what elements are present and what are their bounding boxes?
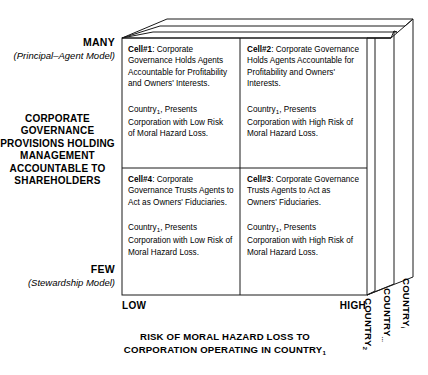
x-axis-title-line-2: CORPORATION OPERATING IN COUNTRY (124, 344, 323, 355)
cell-1-label-suffix: : (152, 45, 154, 54)
plane2-top-left-diagonal (122, 26, 160, 38)
depth-label-country-i: COUNTRYi (400, 278, 412, 328)
cell-4-paragraph-2: Country1, Presents Corporation with Low … (128, 222, 236, 258)
cell-1-paragraph-1: Cell#1: Corporate Governance Holds Agent… (128, 44, 232, 90)
matrix-cell-3: Cell#3: Corporate Governance Trusts Agen… (247, 174, 359, 258)
cell-2-country-pre: Country (247, 105, 276, 114)
cell-2-label-suffix: : (271, 45, 273, 54)
y-axis-bottom-label: FEW (0, 263, 115, 275)
matrix-cell-1: Cell#1: Corporate Governance Holds Agent… (128, 44, 232, 139)
x-axis-title-subscript: 1 (322, 349, 326, 356)
x-axis-title-line-1: RISK OF MORAL HAZARD LOSS TO (140, 331, 310, 342)
apex-diagonal (405, 19, 413, 26)
cell-2-paragraph-1: Cell#2: Corporate Governance Holds Agent… (247, 44, 359, 90)
plane1-plane2-diagonal (391, 26, 405, 38)
cell-1-country-pre: Country (128, 105, 157, 114)
cell-2-label: Cell#2 (247, 45, 271, 54)
depth-label-country-ellipsis-subscript: ... (381, 336, 388, 342)
depth-label-country-2-text: COUNTRY (363, 298, 374, 346)
matrix-cell-2: Cell#2: Corporate Governance Holds Agent… (247, 44, 359, 139)
cell-4-country-pre: Country (128, 223, 157, 232)
cell-3-label-suffix: : (271, 175, 273, 184)
depth-label-country-2-subscript: 2 (362, 346, 369, 350)
y-axis-top-label: MANY (0, 36, 115, 48)
depth-label-country-i-subscript: i (400, 326, 407, 328)
plane1-bottom-right-diagonal (367, 291, 375, 295)
cell-3-country-pre: Country (247, 223, 276, 232)
y-axis-bottom-sublabel: (Stewardship Model) (0, 277, 115, 288)
depth-label-country-2: COUNTRY2 (362, 298, 374, 350)
plane2-corner-connector (394, 31, 397, 32)
x-axis-high-label: HIGH (306, 300, 366, 311)
depth-label-country-i-text: COUNTRY (401, 278, 412, 326)
diagram-canvas: MANY (Principal–Agent Model) CORPORATE G… (0, 0, 428, 375)
plane2-right-diagonal (391, 31, 394, 38)
cell-3-paragraph-1: Cell#3: Corporate Governance Trusts Agen… (247, 174, 359, 208)
depth-label-country-ellipsis-text: COUNTRY (382, 288, 393, 336)
x-axis-title: RISK OF MORAL HAZARD LOSS TO CORPORATION… (100, 330, 350, 359)
y-axis-top-sublabel: (Principal–Agent Model) (0, 50, 115, 61)
plane1-top-left-diagonal (122, 32, 153, 38)
cell-2-paragraph-2: Country1, Presents Corporation with High… (247, 104, 359, 140)
matrix-cell-4: Cell#4: Corporate Governance Trusts Agen… (128, 174, 236, 258)
cell-3-label: Cell#3 (247, 175, 271, 184)
cell-4-paragraph-1: Cell#4: Corporate Governance Trusts Agen… (128, 174, 236, 208)
cell-1-label: Cell#1 (128, 45, 152, 54)
y-axis-title: CORPORATE GOVERNANCE PROVISIONS HOLDING … (0, 113, 115, 187)
cell-1-paragraph-2: Country1, Presents Corporation with Low … (128, 104, 232, 140)
depth-label-country-ellipsis: COUNTRY... (381, 288, 393, 342)
plane3-top-left-diagonal (122, 19, 167, 38)
cell-4-label: Cell#4 (128, 175, 152, 184)
x-axis-low-label: LOW (122, 300, 146, 311)
cell-3-paragraph-2: Country1, Presents Corporation with High… (247, 222, 359, 258)
cell-4-label-suffix: : (152, 175, 154, 184)
plane2-plane3-diagonal (405, 19, 413, 26)
